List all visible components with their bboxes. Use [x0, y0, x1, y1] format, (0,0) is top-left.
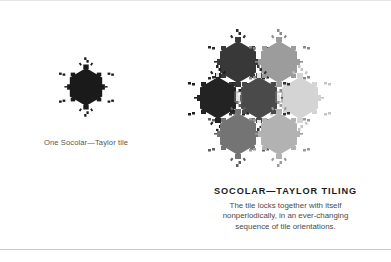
- tiling-description-line: sequence of tile orientations.: [180, 222, 391, 232]
- tiling-description-line: nonperiodically, in an ever-changing: [180, 211, 391, 221]
- tiling-title: SOCOLAR—TAYLOR TILING: [180, 186, 391, 196]
- single-tile: [59, 57, 114, 116]
- tiling-description: The tile locks together with itself nonp…: [180, 201, 391, 232]
- single-tile-caption: One Socolar—Taylor tile: [0, 138, 172, 147]
- bottom-divider: [0, 249, 391, 250]
- tiling-cluster: [188, 29, 331, 167]
- tiling-description-line: The tile locks together with itself: [180, 201, 391, 211]
